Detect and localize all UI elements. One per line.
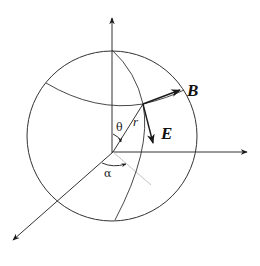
r-label: r <box>133 114 139 129</box>
latitude-arc <box>46 83 184 106</box>
e-label: E <box>160 124 172 143</box>
meridian-arc <box>112 50 145 220</box>
b-vector-arrow <box>143 90 180 104</box>
alpha-angle-arc <box>102 163 126 166</box>
x-axis <box>13 152 113 240</box>
theta-label: θ <box>116 121 123 134</box>
spherical-coordinates-diagram: B E r θ α <box>0 0 260 266</box>
alpha-label: α <box>104 167 112 180</box>
projection-line <box>113 152 151 185</box>
b-label: B <box>186 81 198 100</box>
